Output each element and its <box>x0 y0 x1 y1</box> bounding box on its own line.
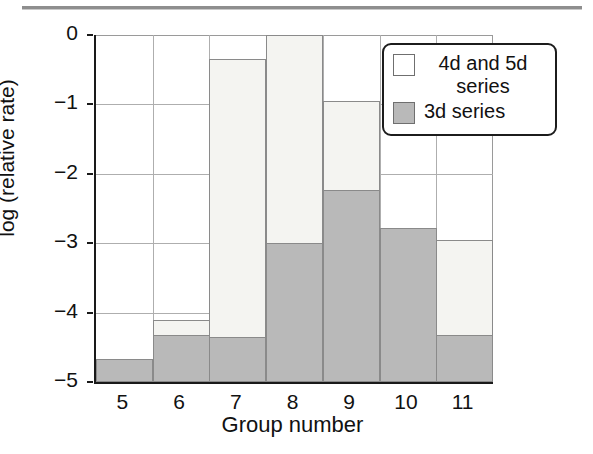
x-tick-label: 7 <box>206 390 266 414</box>
x-axis-label: Group number <box>94 412 491 438</box>
y-tick-label: −4 <box>32 299 78 323</box>
figure-panel: 0−1−2−3−4−5 567891011 log (relative rate… <box>0 0 593 454</box>
x-tick-label: 9 <box>319 390 379 414</box>
bar-segment-3d-series <box>436 335 493 382</box>
bar-segment-3d-series <box>209 337 266 382</box>
scan-edge-line-secondary <box>22 9 582 10</box>
y-tick-mark <box>87 173 93 175</box>
x-tick-label: 5 <box>92 390 152 414</box>
legend-label-4d-5d-series: 4d and 5d series <box>424 52 542 98</box>
bar-column <box>266 35 323 382</box>
bar-column <box>323 35 380 382</box>
x-tick-label: 6 <box>149 390 209 414</box>
legend-item-3d-series: 3d series <box>393 100 546 124</box>
bar-segment-4d-5d-series <box>209 59 266 382</box>
bar-segment-3d-series <box>380 228 437 382</box>
y-tick-mark <box>87 312 93 314</box>
legend-label-3d-series: 3d series <box>424 100 505 123</box>
bar-segment-3d-series <box>323 190 380 382</box>
y-tick-mark <box>87 381 93 383</box>
x-tick-label: 8 <box>263 390 323 414</box>
y-tick-mark <box>87 242 93 244</box>
y-tick-label: −5 <box>32 368 78 392</box>
legend: 4d and 5d series 3d series <box>382 43 557 136</box>
y-tick-label: −3 <box>32 229 78 253</box>
y-tick-mark <box>87 34 93 36</box>
y-tick-label: −1 <box>32 90 78 114</box>
y-axis-label: log (relative rate) <box>0 8 19 308</box>
legend-item-4d-5d-series: 4d and 5d series <box>393 52 546 98</box>
bar-column <box>153 35 210 382</box>
bar-segment-3d-series <box>153 335 210 382</box>
bar-column <box>96 35 153 382</box>
legend-swatch-icon-white <box>393 54 415 76</box>
legend-swatch-icon-gray <box>393 102 415 124</box>
bar-segment-3d-series <box>266 243 323 382</box>
bar-column <box>209 35 266 382</box>
y-tick-label: 0 <box>32 21 78 45</box>
y-tick-label: −2 <box>32 160 78 184</box>
x-tick-label: 10 <box>376 390 436 414</box>
x-tick-label: 11 <box>433 390 493 414</box>
bar-segment-3d-series <box>96 359 153 382</box>
y-tick-mark <box>87 103 93 105</box>
